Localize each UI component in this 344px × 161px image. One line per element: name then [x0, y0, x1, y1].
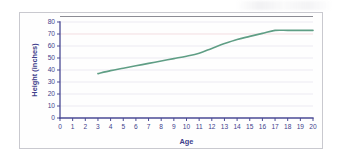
x-tick-label: 3 — [96, 123, 100, 130]
x-tick-label: 19 — [297, 123, 305, 130]
y-tick-label: 70 — [48, 30, 56, 37]
x-tick-label: 9 — [172, 123, 176, 130]
x-tick-label: 12 — [208, 123, 216, 130]
y-tick-label: 0 — [51, 114, 55, 121]
y-tick-label: 60 — [48, 42, 56, 49]
x-tick-label: 17 — [271, 123, 279, 130]
x-tick-label: 5 — [121, 123, 125, 130]
figure-card: 01020304050607080 0123456789101112131415… — [19, 12, 323, 149]
x-tick-label: 14 — [233, 123, 241, 130]
height-series-line — [98, 30, 313, 73]
plot-area: 01020304050607080 0123456789101112131415… — [20, 13, 324, 150]
y-tick-label: 20 — [48, 90, 56, 97]
x-tick-label: 7 — [147, 123, 151, 130]
x-tick-label: 13 — [221, 123, 229, 130]
y-tick-label: 80 — [48, 18, 56, 25]
x-tick-label: 15 — [246, 123, 254, 130]
x-tick-label: 1 — [71, 123, 75, 130]
x-tick-label: 20 — [309, 123, 317, 130]
y-tick-label: 40 — [48, 66, 56, 73]
x-tick-label: 0 — [58, 123, 62, 130]
x-tick-label: 4 — [109, 123, 113, 130]
y-axis-ticks: 01020304050607080 — [48, 18, 60, 121]
x-axis-title: Age — [180, 137, 194, 146]
y-tick-label: 30 — [48, 78, 56, 85]
x-axis-ticks: 01234567891011121314151617181920 — [58, 118, 317, 130]
y-tick-label: 10 — [48, 102, 56, 109]
x-tick-label: 16 — [259, 123, 267, 130]
line-chart: 01020304050607080 0123456789101112131415… — [20, 13, 324, 150]
x-tick-label: 2 — [83, 123, 87, 130]
chart-screenshot: 01020304050607080 0123456789101112131415… — [0, 0, 344, 161]
scan-artifact — [236, 1, 332, 10]
x-tick-label: 10 — [183, 123, 191, 130]
x-tick-label: 6 — [134, 123, 138, 130]
x-tick-label: 8 — [159, 123, 163, 130]
x-tick-label: 11 — [196, 123, 203, 130]
y-axis-title: Height (inches) — [30, 43, 39, 97]
x-tick-label: 18 — [284, 123, 292, 130]
y-tick-label: 50 — [48, 54, 56, 61]
